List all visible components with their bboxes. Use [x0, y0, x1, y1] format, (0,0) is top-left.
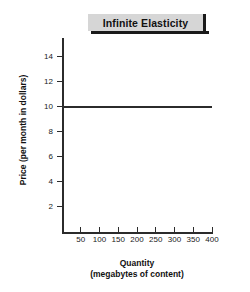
title-banner-shadow [91, 31, 209, 34]
y-axis-tick-label: 8 [33, 128, 53, 136]
y-axis-title: Price (per month in dollars) [18, 55, 28, 205]
x-axis-tick-label: 400 [200, 236, 224, 244]
y-axis-tick-label: 12 [33, 78, 53, 86]
y-axis-tick [57, 81, 63, 82]
y-axis-tick [57, 156, 63, 157]
x-axis-title-line-1: Quantity [52, 258, 222, 269]
y-axis-tick [57, 206, 63, 207]
x-axis-tick [193, 227, 194, 233]
y-axis-tick-label: 2 [33, 203, 53, 211]
y-axis-tick-label: 10 [33, 103, 53, 111]
y-axis-tick [57, 181, 63, 182]
y-axis-tick-label: 4 [33, 178, 53, 186]
x-axis-tick [118, 227, 119, 233]
x-axis-line [62, 232, 213, 234]
x-axis-tick [99, 227, 100, 233]
y-axis-line [62, 38, 64, 233]
y-axis-tick [57, 56, 63, 57]
chart-title-banner: Infinite Elasticity [88, 14, 206, 31]
x-axis-tick [174, 227, 175, 233]
x-axis-tick [212, 227, 213, 233]
x-axis-title: Quantity (megabytes of content) [52, 258, 222, 280]
x-axis-tick [137, 227, 138, 233]
y-axis-tick-label: 6 [33, 153, 53, 161]
x-axis-title-line-2: (megabytes of content) [52, 269, 222, 280]
y-axis-tick [57, 131, 63, 132]
chart-title: Infinite Elasticity [103, 17, 188, 29]
chart-figure: Infinite Elasticity 2468101214 501001502… [0, 0, 250, 292]
y-axis-tick-label: 14 [33, 53, 53, 61]
x-axis-tick [155, 227, 156, 233]
demand-curve-line [62, 106, 212, 108]
x-axis-tick [80, 227, 81, 233]
